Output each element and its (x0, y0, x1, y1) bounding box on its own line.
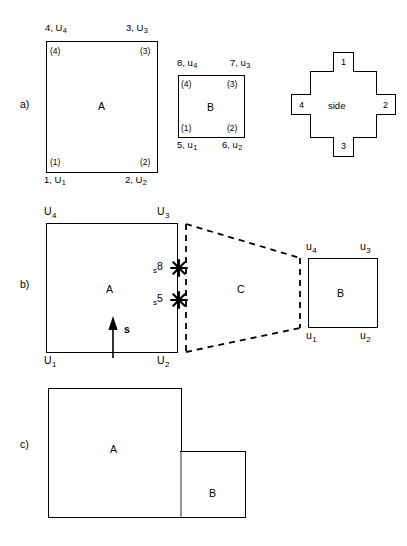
marker-s8-star (171, 260, 187, 276)
interface-top-diagonal (186, 224, 300, 258)
figure-canvas: a) A 4, U4 3, U3 1, U1 2, U2 (4) (3) (1)… (0, 0, 407, 546)
vector-overlay (0, 0, 407, 546)
normal-vector-arrow (108, 316, 117, 358)
marker-s5-star (171, 292, 187, 308)
interface-bottom-diagonal (186, 328, 300, 352)
